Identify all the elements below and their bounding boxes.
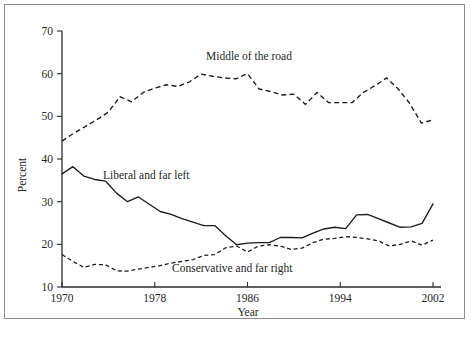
y-tick-label: 30	[42, 196, 54, 208]
x-axis-ticks: 19701978198619942002	[51, 282, 445, 304]
x-tick-label: 1994	[329, 292, 352, 304]
chart-figure: 10203040506070 19701978198619942002 Midd…	[0, 0, 471, 340]
series-label-conservative-and-far-right: Conservative and far right	[172, 262, 293, 275]
x-tick-label: 1970	[51, 292, 74, 304]
y-axis-title: Percent	[16, 157, 28, 192]
series-annotations: Middle of the roadLiberal and far leftCo…	[103, 50, 293, 275]
series-label-liberal-and-far-left: Liberal and far left	[103, 169, 190, 181]
y-tick-label: 50	[42, 110, 54, 122]
x-tick-label: 2002	[422, 292, 445, 304]
y-axis-ticks: 10203040506070	[42, 25, 63, 293]
x-axis-title: Year	[237, 306, 258, 318]
y-tick-label: 20	[42, 238, 54, 250]
y-tick-label: 40	[42, 153, 54, 165]
chart-plot-area: 10203040506070 19701978198619942002 Midd…	[0, 0, 471, 340]
x-tick-label: 1978	[143, 292, 166, 304]
x-tick-label: 1986	[236, 292, 259, 304]
y-tick-label: 70	[42, 25, 54, 37]
series-label-middle-of-the-road: Middle of the road	[206, 50, 292, 62]
series-line-middle-of-the-road	[62, 74, 433, 141]
y-tick-label: 60	[42, 68, 54, 80]
